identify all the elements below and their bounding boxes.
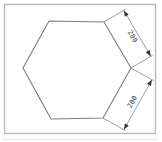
drawing-canvas[interactable]: 200 200 xyxy=(0,0,162,142)
cad-drawing-svg: 200 200 xyxy=(0,0,162,142)
